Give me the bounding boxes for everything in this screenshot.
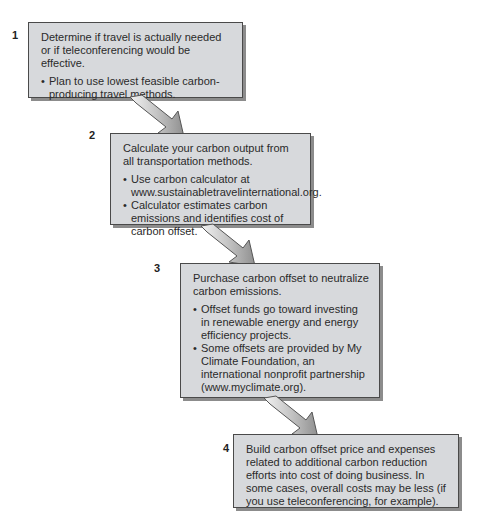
step-number-1: 1 [12, 29, 18, 41]
step-2-bullet-1: Use carbon calculator at www.sustainable… [123, 173, 300, 199]
step-number-4: 4 [223, 442, 229, 454]
step-3-bullets: Offset funds go toward investing in rene… [193, 303, 369, 394]
step-3-heading: Purchase carbon offset to neutralize car… [193, 272, 369, 298]
step-number-2: 2 [89, 129, 95, 141]
step-3-bullet-1: Offset funds go toward investing in rene… [193, 303, 369, 342]
step-1-heading: Determine if travel is actually needed o… [41, 31, 232, 70]
step-box-3: Purchase carbon offset to neutralize car… [180, 263, 380, 398]
arrow-down-right-icon [199, 222, 263, 268]
step-box-2: Calculate your carbon output from all tr… [110, 133, 311, 225]
step-4-heading: Build carbon offset price and expenses r… [246, 443, 448, 508]
step-2-heading: Calculate your carbon output from all tr… [123, 142, 300, 168]
step-3-bullet-2: Some offsets are provided by My Climate … [193, 342, 369, 394]
step-box-1: Determine if travel is actually needed o… [28, 22, 243, 98]
step-number-3: 3 [154, 262, 160, 274]
step-box-4: Build carbon offset price and expenses r… [233, 434, 459, 508]
